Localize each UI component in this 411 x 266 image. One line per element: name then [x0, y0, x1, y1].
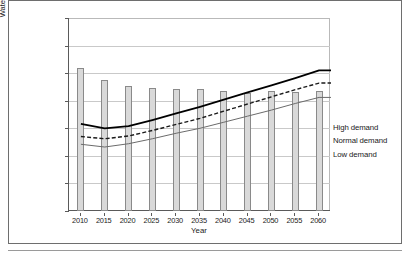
x-axis-tick-label: 2055 [286, 216, 302, 225]
y-axis-tick-labels: 50,000100,000150,000200,000250,000300,00… [0, 0, 63, 266]
line-high-demand [81, 70, 331, 128]
line-normal-demand [81, 83, 331, 139]
x-axis-tick-label: 2045 [239, 216, 255, 225]
legend-label: Normal demand [333, 136, 387, 145]
line-series [69, 18, 331, 211]
plot-area [68, 18, 330, 211]
legend-item: Normal demand [333, 133, 387, 148]
x-axis-tick-label: 2025 [144, 216, 160, 225]
y-axis-title: Water volume (acre-feet) [0, 0, 7, 46]
x-axis-tick-label: 2040 [215, 216, 231, 225]
x-axis-tick-label: 2050 [263, 216, 279, 225]
legend-item: Low demand [333, 147, 377, 162]
x-axis-tick-labels: 2010201520202025203020352040204520502055… [68, 213, 330, 225]
bottom-divider [8, 250, 402, 251]
x-axis-tick-label: 2010 [72, 216, 88, 225]
legend-label: Low demand [333, 150, 377, 159]
x-axis-tick-label: 2060 [310, 216, 326, 225]
x-axis-tick-label: 2020 [120, 216, 136, 225]
y-axis-tick-mark [65, 211, 69, 212]
x-axis-title: Year [68, 226, 330, 235]
legend-label: High demand [333, 123, 378, 132]
chart-figure: 50,000100,000150,000200,000250,000300,00… [0, 0, 411, 266]
x-axis-tick-label: 2030 [167, 216, 183, 225]
x-axis-tick-label: 2015 [96, 216, 112, 225]
x-axis-tick-label: 2035 [191, 216, 207, 225]
